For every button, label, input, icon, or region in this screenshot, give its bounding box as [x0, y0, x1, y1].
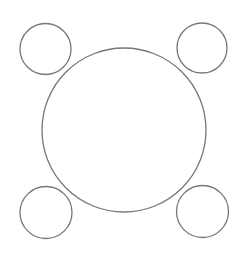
small-circle-bottom-left — [20, 187, 72, 239]
small-circle-bottom-right — [177, 186, 229, 238]
small-circle-top-left — [20, 24, 71, 75]
small-circle-top-right — [177, 23, 227, 73]
large-center-circle — [42, 48, 206, 212]
diagram-canvas — [0, 0, 247, 259]
